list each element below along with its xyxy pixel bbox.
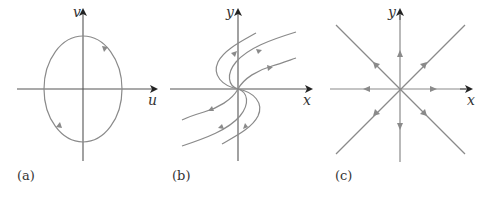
trajectory (229, 32, 296, 89)
panel-label-a: (a) (17, 168, 35, 183)
arrow-icon (397, 123, 403, 130)
panel-c: y x (c) (330, 4, 475, 183)
arrow-icon (397, 50, 403, 57)
arrow-icon (363, 86, 370, 92)
arrow-icon (430, 86, 437, 92)
u-axis-label: u (148, 92, 157, 108)
arrow-icon (420, 62, 427, 69)
arrow-icon (256, 49, 262, 54)
trajectory (222, 89, 260, 144)
v-axis-label: v (73, 4, 81, 20)
trajectory (182, 89, 247, 146)
panel-label-c: (c) (335, 168, 352, 183)
x-axis-label: x (303, 92, 311, 108)
arrow-icon (373, 109, 380, 116)
phase-portraits-figure: v u (a) y x (b) (0, 0, 494, 199)
panel-a: v u (a) (17, 4, 157, 183)
trajectory (238, 58, 296, 89)
y-axis-label: y (225, 4, 235, 20)
x-axis-label: x (467, 92, 475, 108)
arrow-icon (218, 124, 224, 129)
arrow-icon (56, 122, 62, 128)
panel-b: y x (b) (170, 4, 311, 183)
arrow-icon (102, 46, 108, 52)
arrow-icon (231, 51, 237, 57)
y-axis-label: y (387, 4, 397, 20)
panel-label-b: (b) (172, 168, 190, 183)
trajectory (182, 89, 238, 120)
